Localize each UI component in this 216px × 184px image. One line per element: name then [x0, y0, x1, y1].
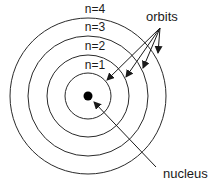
nucleus-label: nucleus	[163, 167, 208, 180]
orbit-label-n3: n=3	[85, 21, 105, 33]
orbit-label-n2: n=2	[85, 40, 105, 52]
orbits-label: orbits	[146, 10, 178, 23]
bohr-model-diagram	[0, 0, 216, 184]
orbit-arrow-2	[126, 28, 160, 77]
orbit-label-n4: n=4	[85, 3, 105, 15]
orbit-label-n1: n=1	[85, 59, 105, 71]
orbit-arrow-1	[107, 28, 160, 80]
nucleus	[84, 92, 93, 101]
